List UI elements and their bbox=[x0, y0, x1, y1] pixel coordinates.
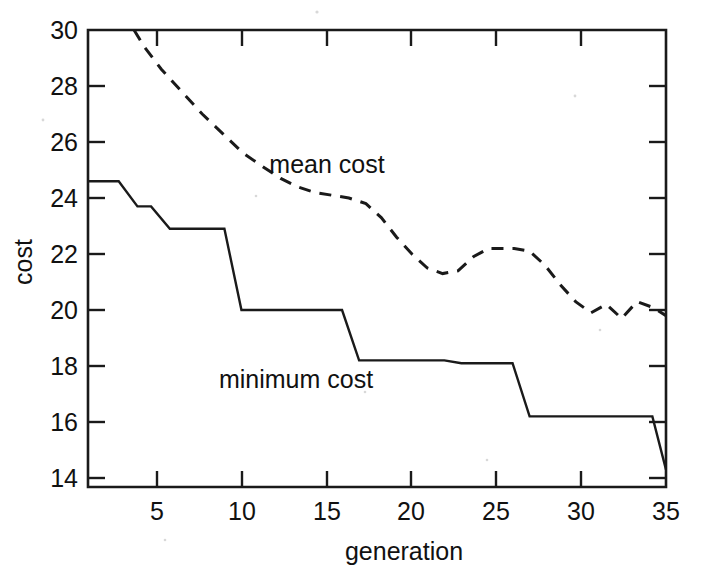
x-ticklabel: 15 bbox=[313, 497, 341, 525]
mean-cost-line bbox=[134, 30, 666, 318]
x-axis-title: generation bbox=[345, 537, 463, 565]
cost-vs-generation-chart: 30 28 26 24 22 20 18 16 14 5 10 15 20 25… bbox=[0, 0, 702, 580]
plot-frame bbox=[88, 30, 666, 487]
minimum-cost-annotation: minimum cost bbox=[219, 365, 373, 393]
y-ticklabel: 26 bbox=[50, 128, 78, 156]
y-axis-title: cost bbox=[9, 239, 37, 285]
y-ticklabel: 20 bbox=[50, 296, 78, 324]
x-ticklabel: 35 bbox=[652, 497, 680, 525]
y-ticklabel: 30 bbox=[50, 16, 78, 44]
y-ticklabel: 14 bbox=[50, 464, 78, 492]
x-ticklabel: 25 bbox=[482, 497, 510, 525]
x-ticklabel: 10 bbox=[228, 497, 256, 525]
y-ticklabel: 28 bbox=[50, 72, 78, 100]
y-axis-ticklabels: 30 28 26 24 22 20 18 16 14 bbox=[50, 16, 78, 492]
y-ticklabel: 18 bbox=[50, 352, 78, 380]
y-ticklabel: 24 bbox=[50, 184, 78, 212]
y-ticklabel: 22 bbox=[50, 240, 78, 268]
x-ticklabel: 5 bbox=[150, 497, 164, 525]
x-axis-ticklabels: 5 10 15 20 25 30 35 bbox=[150, 497, 680, 525]
scan-artifacts bbox=[42, 10, 602, 541]
y-axis-ticks bbox=[88, 86, 666, 478]
minimum-cost-line bbox=[88, 181, 666, 469]
x-ticklabel: 30 bbox=[567, 497, 595, 525]
figure-canvas: 30 28 26 24 22 20 18 16 14 5 10 15 20 25… bbox=[0, 0, 702, 580]
data-series-group bbox=[88, 30, 666, 470]
mean-cost-annotation: mean cost bbox=[269, 150, 384, 178]
x-ticklabel: 20 bbox=[397, 497, 425, 525]
y-ticklabel: 16 bbox=[50, 408, 78, 436]
x-axis-ticks bbox=[157, 30, 581, 487]
